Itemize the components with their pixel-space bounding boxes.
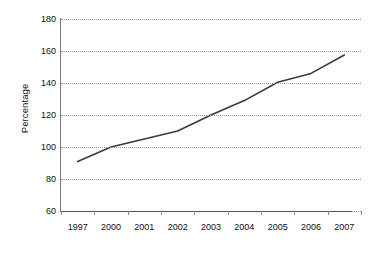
y-tick-label-140: 140 (32, 79, 56, 88)
x-axis-tick (228, 211, 229, 215)
series-polyline (78, 55, 345, 161)
y-tick-label-80: 80 (32, 175, 56, 184)
x-axis-tick (94, 211, 95, 215)
gridline-y-80 (61, 179, 361, 180)
gridline-y-160 (61, 51, 361, 52)
gridline-y-180 (61, 19, 361, 20)
x-axis-tick (194, 211, 195, 215)
x-axis-line (60, 211, 352, 212)
y-axis-tick-labels: 1801601401201008060 (30, 0, 56, 256)
y-axis-title-label: Percentage (20, 83, 31, 133)
x-tick-label-2007: 2007 (324, 222, 364, 232)
x-axis-tick (261, 211, 262, 215)
y-tick-label-120: 120 (32, 111, 56, 120)
y-tick-label-100: 100 (32, 143, 56, 152)
gridline-y-140 (61, 83, 361, 84)
gridline-y-100 (61, 147, 361, 148)
line-chart: Percentage 1801601401201008060 199720002… (0, 0, 376, 256)
x-axis-tick (128, 211, 129, 215)
x-axis-tick (328, 211, 329, 215)
y-tick-label-160: 160 (32, 47, 56, 56)
x-axis-tick (161, 211, 162, 215)
y-tick-label-60: 60 (32, 207, 56, 216)
y-tick-label-180: 180 (32, 15, 56, 24)
plot-area (61, 19, 361, 211)
x-axis-tick (361, 211, 362, 215)
gridline-y-120 (61, 115, 361, 116)
x-axis-tick (61, 211, 62, 215)
x-axis-tick (294, 211, 295, 215)
